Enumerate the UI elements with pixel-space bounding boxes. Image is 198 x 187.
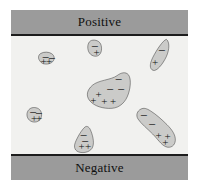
charge-plus: +: [90, 95, 96, 106]
charge-plus: +: [152, 56, 158, 67]
charge-plus: +: [101, 96, 107, 107]
charge-plus: +: [94, 47, 100, 58]
charge-minus: −: [117, 83, 124, 96]
charge-minus: −: [140, 108, 147, 121]
charge-plus: +: [162, 137, 168, 148]
charge-plus: +: [79, 141, 85, 152]
negative-electrode-label: Negative: [75, 160, 124, 176]
charge-plus: +: [36, 113, 42, 124]
charge-plus: +: [46, 56, 52, 67]
charge-plus: +: [110, 95, 116, 106]
charge-minus: −: [158, 43, 165, 56]
negative-electrode-band: Negative: [11, 154, 188, 180]
dielectric-polarization-figure: Positive −−++−+−+−−−++++−−++−−+++−−++ Ne…: [11, 10, 188, 180]
charge-plus: +: [156, 129, 162, 140]
charge-plus: +: [85, 141, 91, 152]
